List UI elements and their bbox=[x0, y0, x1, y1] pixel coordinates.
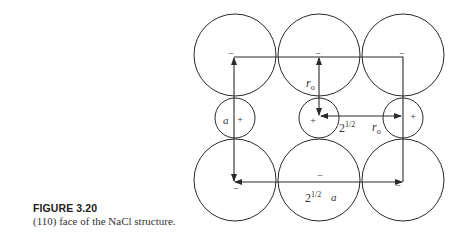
cation-charge-sign: + bbox=[410, 111, 416, 122]
label-sqrt2-a-var: a bbox=[331, 191, 337, 203]
cation-circle bbox=[215, 98, 255, 138]
figure-caption: FIGURE 3.20 (110) face of the NaCl struc… bbox=[33, 202, 176, 228]
figure-description: (110) face of the NaCl structure. bbox=[33, 215, 176, 228]
cation-charge-sign: + bbox=[310, 115, 316, 126]
anion-circle bbox=[194, 139, 276, 221]
anion-charge-sign: − bbox=[317, 170, 323, 181]
anion-charge-sign: − bbox=[233, 183, 239, 194]
label-sqrt2-ro-var: ro bbox=[372, 120, 381, 136]
anion-circle bbox=[194, 14, 276, 96]
label-sqrt2-a: 21/2 bbox=[305, 190, 321, 205]
cation-charge-sign: + bbox=[237, 114, 243, 125]
anion-charge-sign: − bbox=[228, 48, 234, 59]
label-sqrt2-ro: 21/2 bbox=[339, 120, 355, 135]
label-a: a bbox=[223, 114, 229, 126]
figure-number: FIGURE 3.20 bbox=[33, 202, 176, 215]
label-ro-vertical: ro bbox=[306, 76, 315, 92]
